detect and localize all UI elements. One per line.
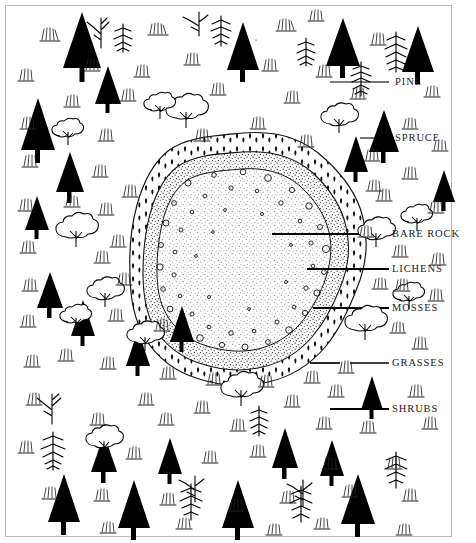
- legend-label-bare-rock: BARE ROCK: [392, 229, 460, 240]
- legend-label-pine: PINE: [395, 77, 422, 88]
- legend-label-grasses: GRASSES: [392, 358, 444, 369]
- legend-label-lichens: LICHENS: [392, 264, 443, 275]
- legend-label-mosses: MOSSES: [392, 303, 438, 314]
- legend-label-spruce: SPRUCE: [395, 133, 440, 144]
- succession-diagram-figure: PINE SPRUCE BARE ROCK LICHENS MOSSES GRA…: [0, 0, 476, 543]
- rock-outcrop: [120, 120, 380, 400]
- legend-label-shrubs: SHRUBS: [392, 404, 438, 415]
